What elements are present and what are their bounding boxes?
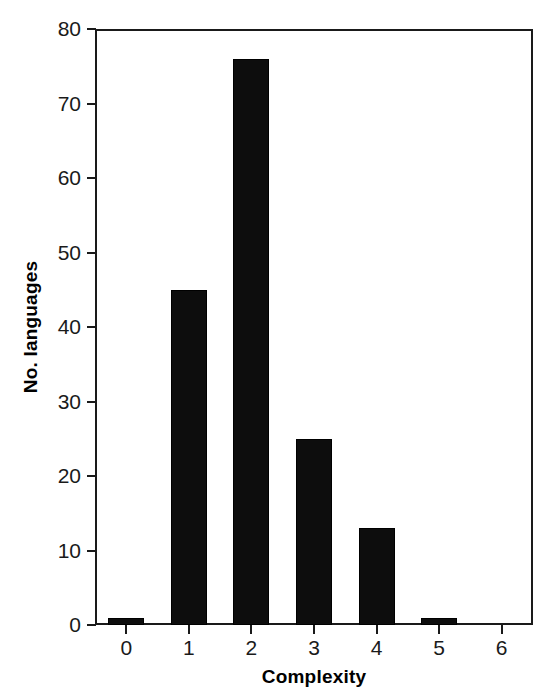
y-axis-tick-label: 80 — [33, 18, 81, 39]
y-axis-tick-label: 50 — [33, 242, 81, 263]
y-axis-tick-label: 60 — [33, 167, 81, 188]
y-axis-tick — [87, 177, 96, 179]
x-axis-tick-label: 5 — [419, 637, 459, 658]
y-axis-tick — [87, 252, 96, 254]
x-axis-tick — [250, 625, 252, 634]
y-axis-tick — [87, 103, 96, 105]
y-axis-tick — [87, 624, 96, 626]
x-axis-tick — [313, 625, 315, 634]
x-axis-tick-label: 2 — [231, 637, 271, 658]
x-axis-tick-label: 3 — [294, 637, 334, 658]
x-axis-tick — [438, 625, 440, 634]
y-axis-tick — [87, 401, 96, 403]
x-axis-tick — [501, 625, 503, 634]
x-axis-tick — [188, 625, 190, 634]
y-axis-tick-label: 20 — [33, 465, 81, 486]
plot-frame — [95, 29, 533, 625]
x-axis-tick — [376, 625, 378, 634]
x-axis-tick-label: 6 — [482, 637, 522, 658]
x-axis-tick — [125, 625, 127, 634]
x-axis-tick-label: 0 — [106, 637, 146, 658]
y-axis-tick-label: 70 — [33, 93, 81, 114]
y-axis-tick — [87, 326, 96, 328]
x-axis-title: Complexity — [95, 666, 533, 688]
x-axis-tick-label: 1 — [169, 637, 209, 658]
y-axis-tick-label: 30 — [33, 391, 81, 412]
x-axis-tick-label: 4 — [357, 637, 397, 658]
y-axis-tick — [87, 550, 96, 552]
y-axis-tick-label: 40 — [33, 316, 81, 337]
y-axis-tick-label: 0 — [33, 614, 81, 635]
y-axis-tick — [87, 475, 96, 477]
y-axis-tick-label: 10 — [33, 540, 81, 561]
y-axis-tick — [87, 28, 96, 30]
bar-chart-figure: No. languages 01020304050607080 0123456 … — [0, 0, 558, 700]
